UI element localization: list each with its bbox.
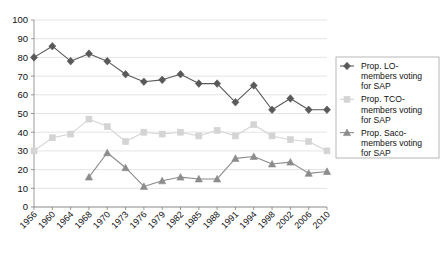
x-tick-label: 1988 [201, 209, 222, 230]
data-point [178, 129, 184, 135]
data-point [269, 133, 275, 139]
data-point [214, 127, 220, 133]
data-point [123, 139, 129, 145]
x-tick-label: 1970 [91, 209, 112, 230]
data-point [196, 133, 202, 139]
data-point [104, 149, 111, 156]
data-point [195, 80, 202, 88]
data-point [305, 106, 312, 114]
data-point [232, 133, 238, 139]
y-tick-label: 20 [17, 164, 28, 175]
y-tick-label: 90 [17, 33, 28, 44]
y-tick-label: 100 [12, 14, 28, 25]
chart-container: 0102030405060708090100 19561960196419681… [0, 0, 445, 254]
data-point [287, 95, 294, 103]
x-tick-label: 1956 [18, 209, 39, 230]
data-point [323, 168, 330, 175]
x-tick-label: 1991 [219, 209, 240, 230]
y-tick-label: 60 [17, 89, 28, 100]
x-tick-label: 1998 [256, 209, 277, 230]
data-point [287, 137, 293, 143]
y-axis-ticks: 0102030405060708090100 [12, 14, 34, 212]
x-tick-label: 1985 [182, 209, 203, 230]
x-tick-label: 2002 [274, 209, 295, 230]
data-point [159, 76, 166, 84]
data-point [250, 153, 257, 160]
chart-legend: Prop. LO-members votingfor SAPProp. TCO-… [336, 57, 439, 158]
data-point [251, 122, 257, 128]
x-tick-label: 1979 [146, 209, 167, 230]
data-point [68, 131, 74, 137]
x-tick-label: 1968 [73, 209, 94, 230]
data-point [104, 57, 111, 65]
data-point [122, 70, 129, 78]
x-tick-label: 2006 [292, 209, 313, 230]
x-tick-label: 1973 [109, 209, 130, 230]
line-chart: 0102030405060708090100 19561960196419681… [0, 0, 445, 254]
legend-marker-square-icon [344, 96, 350, 102]
legend-label-1: Prop. TCO- [361, 94, 405, 104]
y-tick-label: 40 [17, 127, 28, 138]
data-point [49, 135, 55, 141]
x-tick-label: 1994 [237, 209, 258, 230]
y-tick-label: 70 [17, 71, 28, 82]
legend-label-0: members voting [361, 71, 422, 81]
series-0 [31, 42, 331, 113]
data-point [324, 148, 330, 154]
legend-label-0: Prop. LO- [361, 61, 398, 71]
data-series-layer [31, 42, 331, 189]
series-1 [31, 116, 330, 154]
y-tick-label: 10 [17, 183, 28, 194]
legend-label-1: for SAP [361, 115, 391, 125]
data-point [85, 50, 92, 58]
y-tick-label: 0 [23, 201, 28, 212]
x-axis-ticks: 1956196019641968197019731976197919821985… [18, 207, 332, 231]
legend-label-1: members voting [361, 105, 422, 115]
data-point [141, 129, 147, 135]
data-point [177, 173, 184, 180]
x-tick-label: 2010 [311, 209, 332, 230]
x-tick-label: 1976 [128, 209, 149, 230]
data-point [86, 116, 92, 122]
data-point [140, 78, 147, 86]
y-tick-label: 30 [17, 145, 28, 156]
legend-label-2: members voting [361, 138, 422, 148]
data-point [177, 70, 184, 78]
x-tick-label: 1964 [54, 209, 75, 230]
x-tick-label: 1960 [36, 209, 57, 230]
y-tick-label: 80 [17, 52, 28, 63]
data-point [287, 159, 294, 166]
data-point [306, 139, 312, 145]
data-point [31, 148, 37, 154]
data-point [31, 54, 38, 62]
data-point [159, 131, 165, 137]
legend-label-0: for SAP [361, 81, 391, 91]
data-point [104, 124, 110, 130]
y-tick-label: 50 [17, 108, 28, 119]
data-point [324, 106, 331, 114]
legend-label-2: for SAP [361, 148, 391, 158]
x-tick-label: 1982 [164, 209, 185, 230]
legend-label-2: Prop. Saco- [361, 128, 407, 138]
